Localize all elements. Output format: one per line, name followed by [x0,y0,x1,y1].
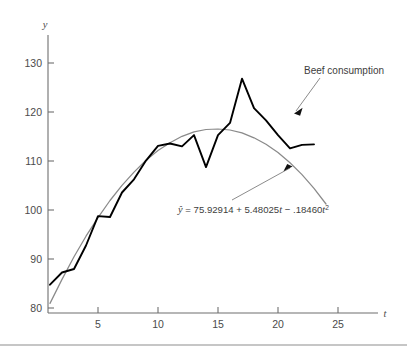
equation-body: = 75.92914 + 5.48025 [183,204,280,215]
series-annotation-label: Beef consumption [304,65,384,76]
series-arrow-head [294,108,303,116]
chart-figure: 130 120 110 100 90 80 5 10 15 20 25 y t … [0,0,407,355]
x-tick-label-20: 20 [272,318,284,330]
equation-leader-line [232,168,290,200]
x-tick-label-25: 25 [332,318,344,330]
y-axis-label: y [42,19,48,30]
x-tick-label-10: 10 [152,318,164,330]
y-tick-label-120: 120 [24,106,42,118]
y-axis-ticks [48,63,54,308]
equation-annotation: ŷ = 75.92914 + 5.48025t − .18460t2 [177,204,329,216]
y-tick-label-110: 110 [25,155,42,167]
equation-minus-term: − .18460 [282,204,322,215]
y-tick-label-130: 130 [24,57,42,69]
equation-exponent: 2 [325,204,329,211]
chart-canvas: 130 120 110 100 90 80 5 10 15 20 25 y t … [0,0,407,355]
fitted-quadratic-curve [50,129,326,303]
series-leader-line [296,78,320,111]
x-axis-label: t [384,308,388,319]
equation-arrow-head [284,164,293,171]
y-tick-label-100: 100 [24,204,42,216]
y-tick-label-90: 90 [30,253,42,265]
y-tick-label-80: 80 [30,302,42,314]
x-tick-label-5: 5 [95,318,101,330]
beef-consumption-line [50,79,314,285]
x-tick-label-15: 15 [212,318,224,330]
x-axis-ticks [98,307,338,313]
